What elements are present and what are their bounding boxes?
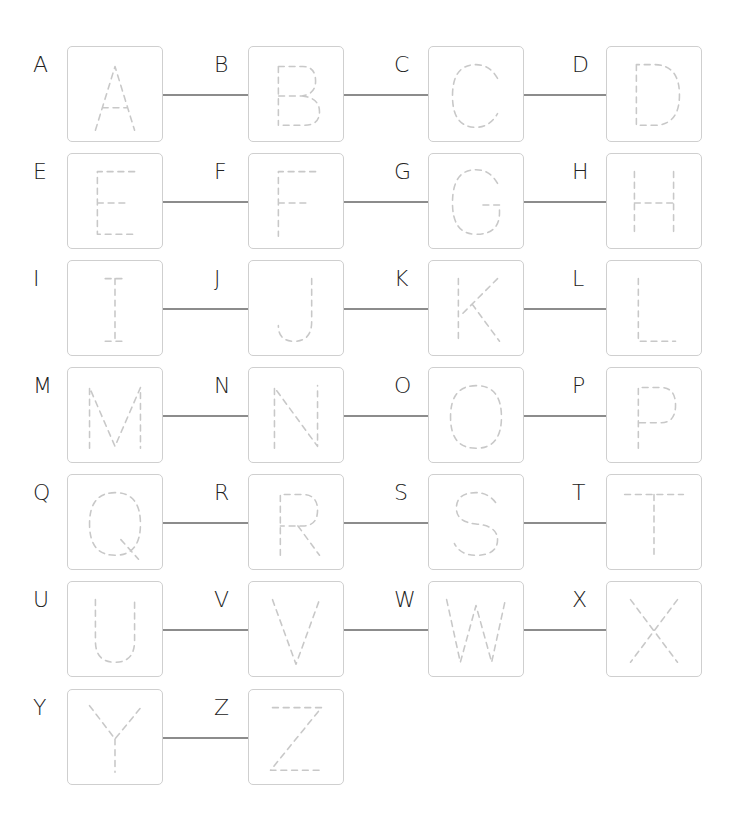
tracing-box-k [428,260,524,356]
connector-line [524,201,606,203]
dashed-letter-v-icon [249,582,343,676]
letter-label-d: D [572,54,589,76]
tracing-box-s [428,474,524,570]
dashed-letter-o-icon [429,368,523,462]
tracing-box-f [248,153,344,249]
letter-label-z: Z [214,697,229,719]
letter-label-i: I [33,268,40,290]
letter-label-e: E [33,161,47,183]
connector-line [524,415,606,417]
tracing-box-m [67,367,163,463]
dashed-letter-c-icon [429,47,523,141]
letter-label-w: W [394,589,416,611]
dashed-letter-z-icon [249,690,343,784]
letter-label-u: U [33,589,49,611]
connector-line [163,308,248,310]
tracing-box-d [606,46,702,142]
connector-line [344,415,428,417]
dashed-letter-j-icon [249,261,343,355]
connector-line [344,522,428,524]
letter-label-c: C [394,54,409,76]
letter-label-f: F [214,161,227,183]
letter-label-p: P [572,375,585,397]
tracing-box-i [67,260,163,356]
connector-line [163,737,248,739]
dashed-letter-k-icon [429,261,523,355]
tracing-box-e [67,153,163,249]
tracing-box-z [248,689,344,785]
letter-label-m: M [33,375,52,397]
letter-label-v: V [214,589,229,611]
letter-label-x: X [572,589,587,611]
dashed-letter-b-icon [249,47,343,141]
tracing-box-o [428,367,524,463]
tracing-box-w [428,581,524,677]
letter-label-s: S [394,482,408,504]
letter-label-n: N [214,375,230,397]
connector-line [524,522,606,524]
tracing-box-c [428,46,524,142]
letter-label-k: K [394,268,408,290]
tracing-box-b [248,46,344,142]
tracing-box-t [606,474,702,570]
tracing-box-q [67,474,163,570]
dashed-letter-g-icon [429,154,523,248]
tracing-box-h [606,153,702,249]
connector-line [163,522,248,524]
letter-label-y: Y [33,697,46,719]
connector-line [524,629,606,631]
letter-label-q: Q [33,482,50,504]
dashed-letter-e-icon [68,154,162,248]
letter-label-g: G [394,161,411,183]
tracing-box-y [67,689,163,785]
letter-label-j: J [214,268,221,290]
dashed-letter-i-icon [68,261,162,355]
dashed-letter-w-icon [429,582,523,676]
dashed-letter-m-icon [68,368,162,462]
connector-line [344,201,428,203]
letter-label-r: R [214,482,229,504]
dashed-letter-f-icon [249,154,343,248]
connector-line [344,308,428,310]
dashed-letter-t-icon [607,475,701,569]
letter-label-t: T [572,482,585,504]
connector-line [163,94,248,96]
tracing-box-u [67,581,163,677]
connector-line [163,201,248,203]
tracing-box-r [248,474,344,570]
dashed-letter-h-icon [607,154,701,248]
dashed-letter-q-icon [68,475,162,569]
dashed-letter-p-icon [607,368,701,462]
tracing-box-j [248,260,344,356]
letter-label-l: L [572,268,584,290]
connector-line [524,308,606,310]
connector-line [344,629,428,631]
connector-line [163,629,248,631]
dashed-letter-d-icon [607,47,701,141]
tracing-box-a [67,46,163,142]
letter-label-b: B [214,54,228,76]
dashed-letter-r-icon [249,475,343,569]
letter-label-o: O [394,375,411,397]
tracing-box-g [428,153,524,249]
dashed-letter-u-icon [68,582,162,676]
tracing-box-v [248,581,344,677]
tracing-box-x [606,581,702,677]
letter-label-a: A [33,54,48,76]
tracing-box-p [606,367,702,463]
connector-line [163,415,248,417]
tracing-box-n [248,367,344,463]
letter-label-h: H [572,161,589,183]
dashed-letter-x-icon [607,582,701,676]
dashed-letter-s-icon [429,475,523,569]
tracing-box-l [606,260,702,356]
dashed-letter-y-icon [68,690,162,784]
connector-line [344,94,428,96]
connector-line [524,94,606,96]
dashed-letter-n-icon [249,368,343,462]
dashed-letter-a-icon [68,47,162,141]
dashed-letter-l-icon [607,261,701,355]
